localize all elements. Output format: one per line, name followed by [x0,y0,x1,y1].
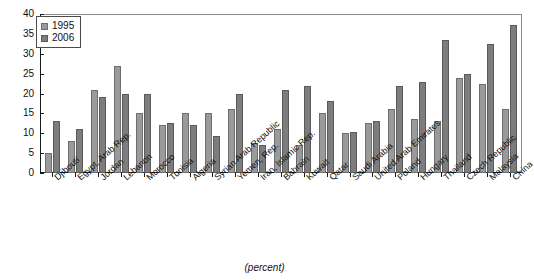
bar-group [132,14,155,173]
y-axis-tick-label: 0 [14,168,34,178]
legend-label-1995: 1995 [52,21,74,31]
bar-2006 [53,121,60,173]
bar-group [315,14,338,173]
y-axis-tick-label: 15 [14,108,34,118]
legend-item-1995[interactable]: 1995 [41,20,74,32]
chart-caption: (percent) [0,262,529,273]
y-axis-tick-label: 30 [14,49,34,59]
bar-2006 [350,132,357,173]
bar-group [452,14,475,173]
bar-2006 [76,129,83,173]
y-axis-tick-label: 25 [14,69,34,79]
y-axis-tick-label: 10 [14,128,34,138]
y-axis-tick-mark [40,173,44,174]
bar-group [201,14,224,173]
y-axis-tick-label: 5 [14,148,34,158]
legend-label-2006: 2006 [52,33,74,43]
legend-swatch-2006-icon [41,35,48,42]
legend: 1995 2006 [36,16,81,48]
legend-item-2006[interactable]: 2006 [41,32,74,44]
y-axis-tick-label: 35 [14,29,34,39]
legend-swatch-1995-icon [41,23,48,30]
bar-1995 [45,153,52,173]
bar-group [155,14,178,173]
bar-group [430,14,453,173]
bar-group [178,14,201,173]
bar-group [338,14,361,173]
y-axis-tick-label: 20 [14,89,34,99]
y-axis-tick-label: 40 [14,9,34,19]
